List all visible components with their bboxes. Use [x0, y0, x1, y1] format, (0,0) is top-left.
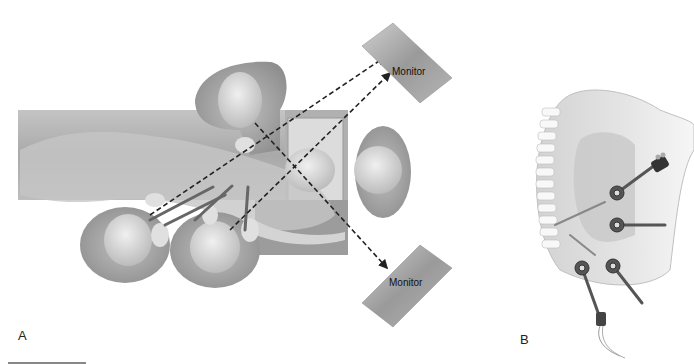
panel-b-thoracoscopic-ports: B [500, 0, 694, 364]
panel-b-label: B [520, 332, 529, 347]
monitor-top-label: Monitor [392, 66, 426, 77]
monitor-top: Monitor [362, 23, 452, 103]
or-setup-illustration: Monitor Monitor [0, 0, 480, 364]
panel-a-label: A [18, 328, 27, 343]
irrigation-connector-icon [596, 312, 625, 358]
surgeon-bottom-left-figure [80, 193, 170, 283]
anesthesiologist-figure [354, 126, 411, 218]
thorax-port-illustration [500, 0, 694, 364]
panel-a-or-setup: Monitor Monitor A [0, 0, 480, 364]
monitor-bottom-label: Monitor [389, 277, 423, 288]
monitor-bottom: Monitor [362, 245, 452, 327]
